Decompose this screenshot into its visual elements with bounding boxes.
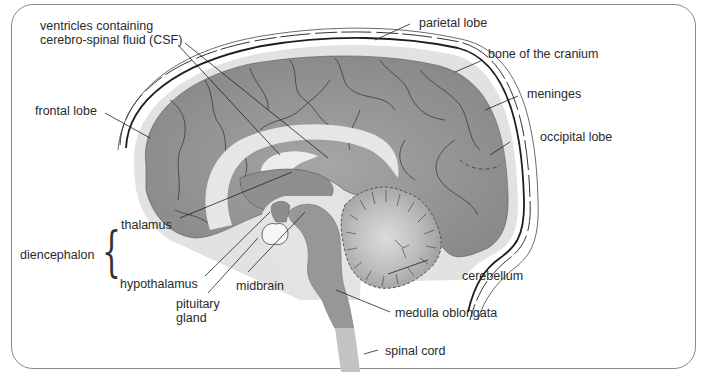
label-midbrain: midbrain (236, 279, 284, 293)
label-ventricles: ventricles containing cerebro-spinal flu… (40, 19, 182, 47)
label-pituitary-line2: gland (176, 311, 220, 325)
label-pituitary-line1: pituitary (176, 297, 220, 311)
label-frontal-lobe: frontal lobe (35, 104, 97, 118)
label-cerebellum: cerebellum (462, 269, 523, 283)
label-ventricles-line1: ventricles containing (40, 19, 182, 33)
label-bone-cranium: bone of the cranium (488, 47, 599, 61)
diencephalon-brace: { (102, 225, 121, 279)
brain-diagram (0, 0, 709, 377)
label-meninges: meninges (527, 87, 581, 101)
label-hypothalamus: hypothalamus (120, 277, 198, 291)
spinal-cord (335, 328, 360, 372)
label-diencephalon: diencephalon (20, 248, 94, 262)
label-pituitary-gland: pituitary gland (176, 297, 220, 325)
label-ventricles-line2: cerebro-spinal fluid (CSF) (40, 33, 182, 47)
label-spinal-cord: spinal cord (385, 344, 445, 358)
label-occipital-lobe: occipital lobe (540, 130, 612, 144)
label-parietal-lobe: parietal lobe (419, 16, 487, 30)
label-medulla-oblongata: medulla oblongata (395, 306, 497, 320)
label-thalamus: thalamus (121, 218, 172, 232)
